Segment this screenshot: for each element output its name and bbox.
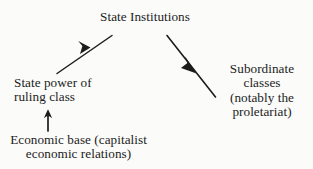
arrow-shaft: [57, 36, 112, 74]
node-subordinate-classes-line-4: proletariat): [232, 104, 291, 119]
arrow-head: [181, 56, 197, 73]
node-economic-base: Economic base (capitalisteconomic relati…: [0, 133, 157, 162]
node-subordinate-classes-line-2: classes: [244, 75, 281, 90]
arrow-power-to-institutions: [57, 36, 112, 74]
arrow-institutions-to-subordinate: [167, 36, 216, 98]
node-state-power: State power ofruling class: [14, 76, 92, 105]
arrow-head: [44, 109, 52, 118]
arrow-shaft: [167, 36, 216, 98]
node-state-institutions-line-1: State Institutions: [100, 9, 190, 24]
arrow-base-to-power: [44, 109, 52, 131]
node-state-institutions: State Institutions: [0, 10, 290, 24]
diagram-canvas: State Institutions State power ofruling …: [0, 0, 313, 169]
node-subordinate-classes-line-3: (notably the: [230, 90, 294, 105]
node-state-power-line-2: ruling class: [14, 89, 75, 104]
arrow-head: [78, 41, 90, 54]
node-economic-base-line-1: Economic base (capitalist: [10, 132, 147, 147]
node-economic-base-line-2: economic relations): [26, 146, 131, 161]
node-subordinate-classes: Subordinateclasses(notably theproletaria…: [222, 62, 302, 120]
node-subordinate-classes-line-1: Subordinate: [230, 61, 294, 76]
node-state-power-line-1: State power of: [14, 75, 92, 90]
